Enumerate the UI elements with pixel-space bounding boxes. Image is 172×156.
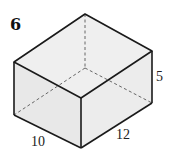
height-label: 5: [156, 69, 163, 84]
length-label: 12: [116, 127, 130, 142]
width-label: 10: [31, 134, 45, 149]
problem-number: 6: [10, 15, 21, 34]
prism-diagram: 6 5 12 10: [0, 0, 172, 156]
